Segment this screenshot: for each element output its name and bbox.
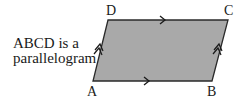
parallelogram-shape — [93, 20, 228, 81]
parallelogram-diagram: D C A B — [0, 0, 246, 100]
vertex-label-a: A — [87, 84, 98, 99]
vertex-label-c: C — [224, 3, 233, 18]
vertex-label-b: B — [207, 84, 216, 99]
vertex-label-d: D — [106, 3, 116, 18]
